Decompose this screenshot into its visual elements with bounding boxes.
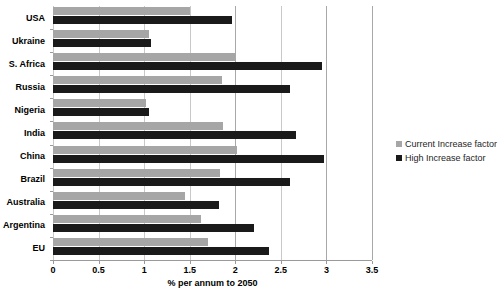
x-tick-mark [372,261,373,264]
category-label-eu: EU [32,243,45,253]
bar-group [53,214,372,237]
bar-russia-high [53,85,290,93]
x-tick-mark [190,261,191,264]
bar-s-africa-current [53,53,235,61]
bar-group [53,168,372,191]
bar-india-high [53,131,296,139]
bar-india-current [53,122,223,130]
bar-group [53,52,372,75]
x-tick-mark [281,261,282,264]
bar-rows [53,6,372,260]
category-label-s-africa: S. Africa [9,59,45,69]
x-tick-label-0: 0 [50,265,55,275]
bar-eu-high [53,247,269,255]
legend-label: Current Increase factor [405,139,497,149]
bar-group [53,98,372,121]
category-label-australia: Australia [6,197,45,207]
bar-china-current [53,146,237,154]
legend-item-high-increase-factor[interactable]: High Increase factor [396,153,502,163]
bar-brazil-high [53,178,290,186]
bar-nigeria-current [53,99,146,107]
plot-area [53,6,372,260]
bar-nigeria-high [53,108,149,116]
bar-group [53,237,372,260]
bar-chart: USAUkraineS. AfricaRussiaNigeriaIndiaChi… [0,0,504,295]
x-axis-ticks: 00.511.522.533.5 [0,261,504,277]
bar-china-high [53,155,324,163]
x-tick-label-3: 3 [324,265,329,275]
legend-swatch-icon [396,141,402,147]
bar-s-africa-high [53,62,322,70]
category-label-argentina: Argentina [3,220,45,230]
bar-australia-high [53,201,219,209]
category-label-nigeria: Nigeria [14,105,45,115]
x-tick-label-1: 1 [142,265,147,275]
bar-group [53,121,372,144]
category-label-china: China [20,151,45,161]
bar-eu-current [53,238,208,246]
category-label-ukraine: Ukraine [12,36,45,46]
bar-group [53,29,372,52]
x-tick-mark [99,261,100,264]
category-label-brazil: Brazil [20,174,45,184]
bar-group [53,145,372,168]
legend-item-current-increase-factor[interactable]: Current Increase factor [396,139,502,149]
legend-label: High Increase factor [405,153,486,163]
bar-brazil-current [53,169,220,177]
x-tick-mark [326,261,327,264]
category-axis-labels: USAUkraineS. AfricaRussiaNigeriaIndiaChi… [0,6,49,260]
bar-russia-current [53,76,222,84]
x-tick-label-2.5: 2.5 [275,265,288,275]
chart-legend: Current Increase factorHigh Increase fac… [396,139,502,167]
x-tick-label-2: 2 [233,265,238,275]
gridline-3.5 [372,6,373,260]
bar-australia-current [53,192,185,200]
bar-group [53,191,372,214]
x-tick-label-3.5: 3.5 [366,265,379,275]
legend-swatch-icon [396,155,402,161]
x-tick-mark [144,261,145,264]
bar-ukraine-current [53,30,149,38]
category-label-india: India [24,128,45,138]
bar-argentina-current [53,215,201,223]
bar-usa-high [53,16,232,24]
x-tick-mark [235,261,236,264]
bar-group [53,75,372,98]
x-tick-label-1.5: 1.5 [183,265,196,275]
bar-ukraine-high [53,39,151,47]
x-tick-mark [53,261,54,264]
category-label-russia: Russia [15,82,45,92]
x-axis-title: % per annum to 2050 [53,278,372,288]
bar-group [53,6,372,29]
category-label-usa: USA [26,13,45,23]
bar-argentina-high [53,224,254,232]
bar-usa-current [53,7,190,15]
x-tick-label-0.5: 0.5 [92,265,105,275]
